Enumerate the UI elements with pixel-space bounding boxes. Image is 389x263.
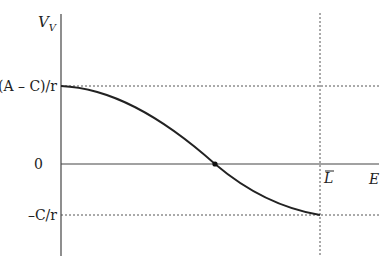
x-tick-upper-bound: L	[323, 170, 334, 186]
y-tick-max: (A – C)/r	[0, 78, 57, 94]
zero-crossing-point	[212, 161, 217, 166]
value-function-diagram: VV (A – C)/r 0 –C/r L E	[0, 0, 389, 263]
y-tick-zero: 0	[34, 156, 43, 172]
svg-text:L: L	[323, 170, 333, 186]
y-axis-label: VV	[38, 13, 58, 33]
value-curve	[61, 86, 320, 215]
x-axis-label: E	[368, 171, 379, 187]
y-tick-min: –C/r	[28, 207, 57, 223]
